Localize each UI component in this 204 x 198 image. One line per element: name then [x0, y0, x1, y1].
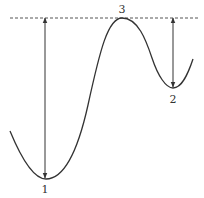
point-label-1: 1 — [42, 184, 49, 195]
point-label-3: 3 — [119, 4, 126, 15]
diagram-canvas: 1 2 3 — [0, 0, 204, 198]
wave-curve — [10, 18, 193, 179]
point-label-2: 2 — [170, 94, 177, 105]
